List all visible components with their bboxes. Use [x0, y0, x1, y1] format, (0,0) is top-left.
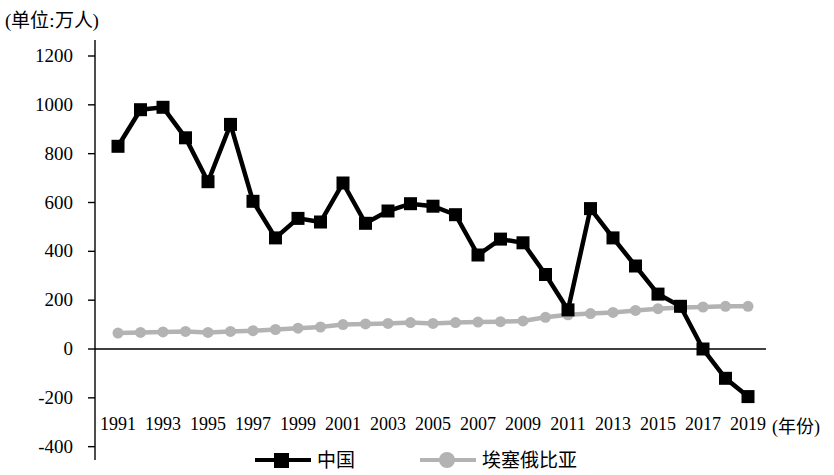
x-tick-label: 2013 [595, 414, 631, 435]
y-tick-label: 1200 [3, 45, 73, 67]
legend-swatch-circle-icon [420, 450, 476, 468]
x-tick-label: 2011 [550, 414, 585, 435]
x-tick-label: 2007 [460, 414, 496, 435]
x-tick-label: 1991 [100, 414, 136, 435]
legend-label-china: 中国 [317, 445, 355, 472]
y-tick-label: 400 [3, 240, 73, 262]
series-china [112, 101, 755, 403]
x-tick-label: 1993 [145, 414, 181, 435]
x-tick-label: 2005 [415, 414, 451, 435]
chart-container: (单位:万人) (年份) 120010008006004002000-200-4… [0, 0, 834, 475]
x-tick-label: 1999 [280, 414, 316, 435]
y-tick-label: 200 [3, 289, 73, 311]
x-tick-label: 2003 [370, 414, 406, 435]
y-tick-label: 600 [3, 192, 73, 214]
legend-label-ethiopia: 埃塞俄比亚 [482, 445, 577, 472]
y-tick-label: 800 [3, 143, 73, 165]
plot-area [0, 0, 834, 475]
legend-swatch-square-icon [255, 450, 311, 468]
x-tick-label: 1997 [235, 414, 271, 435]
series-ethiopia [113, 301, 754, 339]
legend-item-ethiopia: 埃塞俄比亚 [420, 445, 577, 472]
x-tick-label: 2001 [325, 414, 361, 435]
y-tick-label: 0 [3, 338, 73, 360]
x-tick-label: 1995 [190, 414, 226, 435]
x-tick-label: 2017 [685, 414, 721, 435]
chart-legend: 中国 埃塞俄比亚 [0, 443, 834, 475]
legend-item-china: 中国 [255, 445, 355, 472]
y-tick-label: -200 [3, 387, 73, 409]
y-tick-label: 1000 [3, 94, 73, 116]
x-tick-label: 2019 [730, 414, 766, 435]
x-tick-label: 2009 [505, 414, 541, 435]
x-tick-label: 2015 [640, 414, 676, 435]
